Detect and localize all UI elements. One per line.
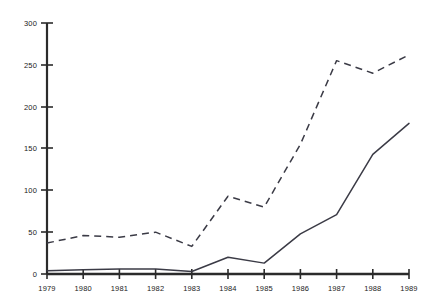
x-axis-ticks: 1979198019811982198319841985198619871988… [38, 269, 417, 293]
y-tick-label-100: 100 [24, 186, 37, 195]
y-tick-label-300: 300 [24, 19, 37, 28]
x-tick-label-1984: 1984 [219, 284, 236, 293]
x-tick-label-1981: 1981 [111, 284, 128, 293]
y-tick-label-150: 150 [24, 144, 37, 153]
x-tick-label-1979: 1979 [38, 284, 55, 293]
chart-plot-area: 0 50 100 150 200 250 300 197919801981198… [0, 0, 428, 304]
x-tick-label-1982: 1982 [147, 284, 164, 293]
y-tick-label-200: 200 [24, 103, 37, 112]
y-tick-label-250: 250 [24, 61, 37, 70]
y-axis-tick-labels: 0 50 100 150 200 250 300 [24, 19, 37, 279]
x-tick-label-1985: 1985 [256, 284, 273, 293]
x-tick-label-1986: 1986 [292, 284, 309, 293]
y-tick-label-50: 50 [28, 228, 37, 237]
series-line-dashed [47, 55, 409, 247]
x-tick-label-1989: 1989 [400, 284, 417, 293]
x-tick-label-1988: 1988 [364, 284, 381, 293]
y-tick-label-0: 0 [33, 270, 37, 279]
x-tick-label-1980: 1980 [75, 284, 92, 293]
x-tick-label-1983: 1983 [183, 284, 200, 293]
line-chart: 0 50 100 150 200 250 300 197919801981198… [0, 0, 428, 304]
x-tick-label-1987: 1987 [328, 284, 345, 293]
